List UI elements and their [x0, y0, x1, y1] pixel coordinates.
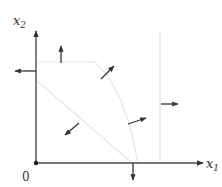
y-axis-label: x2: [13, 13, 26, 30]
axis-labels: x2 x1 0: [13, 13, 219, 184]
coordinate-axes: [34, 31, 203, 165]
x-axis-label: x1: [206, 156, 219, 173]
top-constraint-curve: [36, 62, 138, 163]
arrow-southwest-icon: [65, 123, 79, 135]
arrow-northeast-top-icon: [101, 66, 114, 79]
diagram-canvas: x2 x1 0: [0, 0, 222, 187]
arrow-east-northeast-icon: [128, 118, 146, 124]
direction-arrows: [15, 46, 178, 180]
constraint-boundaries: [36, 32, 160, 163]
origin-label: 0: [22, 170, 30, 184]
vector-field-diagram: x2 x1 0: [0, 0, 222, 187]
origin-dot: [34, 161, 38, 165]
